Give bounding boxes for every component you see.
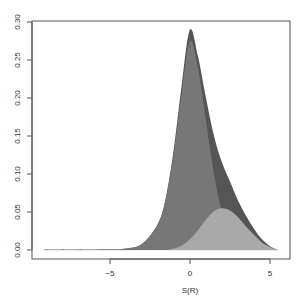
x-axis: −505	[105, 259, 272, 278]
y-tick-label: 0.15	[13, 128, 22, 144]
y-axis: 0.000.050.100.150.200.250.30	[13, 14, 32, 258]
plot-area	[43, 29, 278, 250]
x-tick-label: −5	[105, 269, 115, 278]
y-tick-label: 0.05	[13, 204, 22, 220]
density-area-series-1	[43, 29, 278, 250]
x-tick-label: 0	[188, 269, 193, 278]
density-chart: −505 0.000.050.100.150.200.250.30 S(R)	[0, 0, 304, 305]
y-tick-label: 0.10	[13, 166, 22, 182]
y-tick-label: 0.00	[13, 242, 22, 258]
x-tick-label: 5	[268, 269, 273, 278]
y-tick-label: 0.20	[13, 90, 22, 106]
y-tick-label: 0.30	[13, 14, 22, 30]
y-tick-label: 0.25	[13, 52, 22, 68]
x-axis-title: S(R)	[182, 286, 199, 295]
